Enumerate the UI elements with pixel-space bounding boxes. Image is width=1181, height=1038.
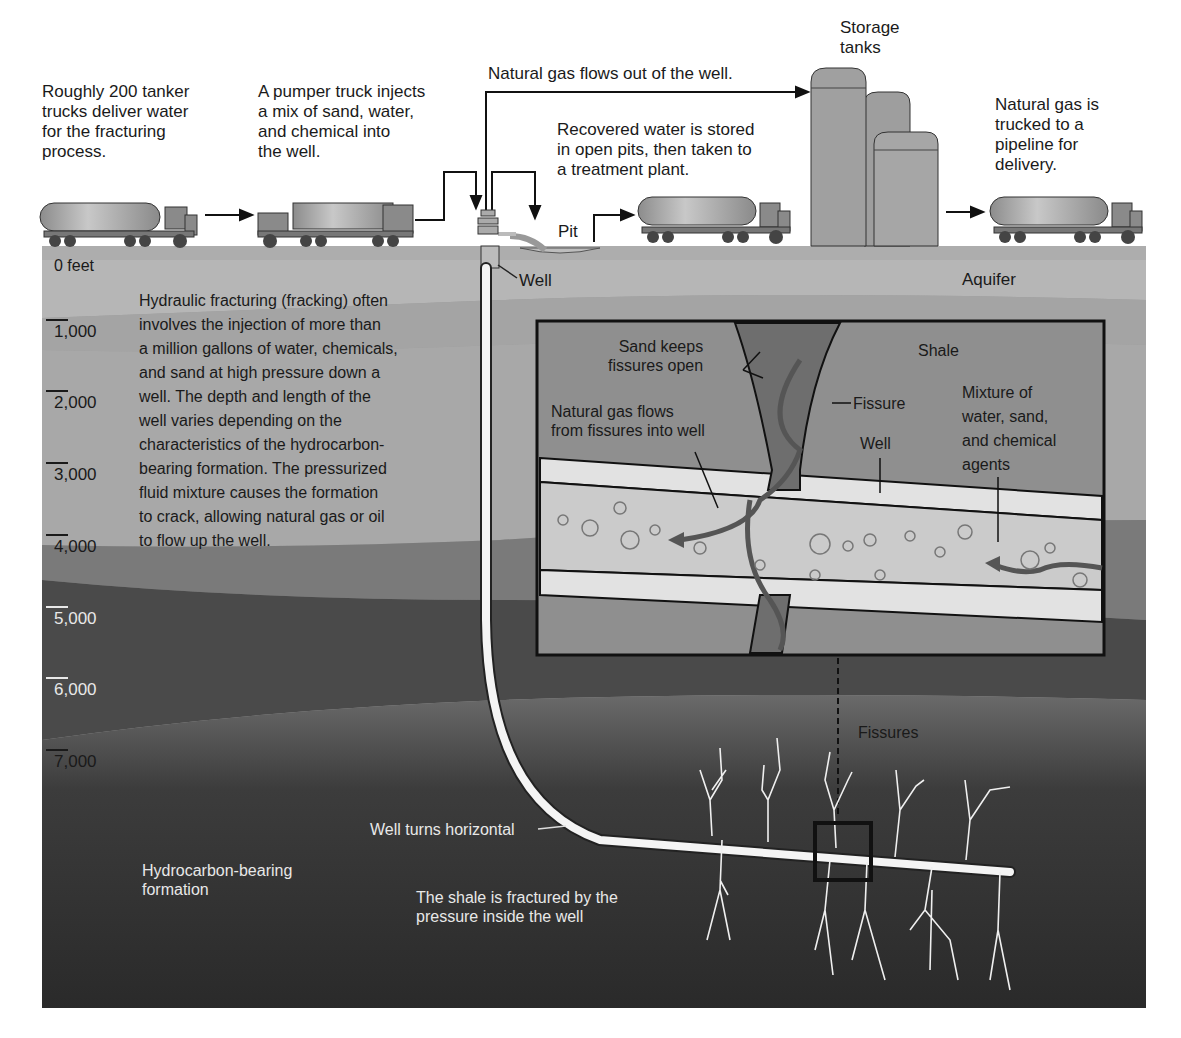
gas-flow-caption: Natural gas flows out of the well.	[488, 64, 733, 84]
formation-label: Hydrocarbon-bearing formation	[142, 861, 292, 899]
inset-gas-flow-label: Natural gas flows from fissures into wel…	[551, 402, 705, 440]
pumper-truck	[258, 203, 413, 248]
pit-label: Pit	[558, 222, 578, 242]
depth-tick-2000: 2,000	[46, 390, 97, 413]
fissures-label: Fissures	[858, 723, 918, 742]
inset-fissure-label: Fissure	[853, 394, 905, 413]
description-text: Hydraulic fracturing (fracking) often in…	[139, 289, 398, 553]
storage-caption: Storage tanks	[840, 18, 900, 58]
well-label: Well	[519, 271, 552, 291]
inset-well-label: Well	[860, 434, 891, 453]
tanker-truck-1	[40, 203, 197, 248]
inset-mixture-label: Mixture of water, sand, and chemical age…	[962, 381, 1056, 477]
depth-tick-1000: 1,000	[46, 319, 97, 342]
well-horizontal-label: Well turns horizontal	[370, 820, 515, 839]
depth-tick-4000: 4,000	[46, 534, 97, 557]
inset-shale-label: Shale	[918, 341, 959, 360]
depth-zero-label: 0 feet	[54, 256, 94, 276]
delivery-caption: Natural gas is trucked to a pipeline for…	[995, 95, 1099, 175]
depth-tick-5000: 5,000	[46, 606, 97, 629]
tanker-truck-3	[990, 197, 1142, 244]
pumper-caption: A pumper truck injects a mix of sand, wa…	[258, 82, 425, 162]
fracture-label: The shale is fractured by the pressure i…	[416, 888, 618, 926]
depth-tick-3000: 3,000	[46, 462, 97, 485]
tanker-truck-2	[638, 197, 790, 244]
inset-sand-label: Sand keeps fissures open	[608, 337, 703, 375]
storage-tanks	[811, 68, 938, 246]
depth-tick-7000: 7,000	[46, 749, 97, 772]
tanker-caption: Roughly 200 tanker trucks deliver water …	[42, 82, 189, 162]
recovered-water-caption: Recovered water is stored in open pits, …	[557, 120, 754, 180]
aquifer-label: Aquifer	[962, 270, 1016, 290]
depth-tick-6000: 6,000	[46, 677, 97, 700]
